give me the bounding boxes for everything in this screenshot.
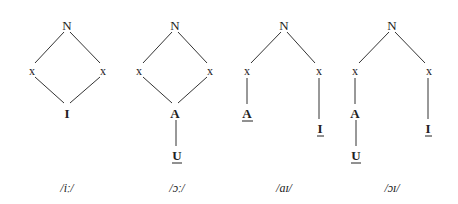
skeleton-node-x-left: x	[136, 64, 142, 78]
diagram-canvas: N x x I /iː/ N x x A U /ɔː/ N x x A I /a…	[0, 0, 458, 204]
root-node-n: N	[387, 18, 397, 33]
element-i-headed: I	[425, 121, 430, 136]
element-a: A	[350, 106, 360, 121]
root-node-n: N	[62, 18, 72, 33]
element-a-headed: A	[242, 106, 252, 121]
skeleton-node-x-right: x	[426, 64, 432, 78]
vowel-label: /ɔː/	[168, 181, 186, 195]
vowel-label: /ɔɪ/	[383, 181, 401, 195]
element-i-headed: I	[317, 121, 322, 136]
skeleton-node-x-right: x	[316, 64, 322, 78]
vowel-label: /iː/	[59, 181, 75, 195]
skeleton-node-x-left: x	[352, 64, 358, 78]
element-a: A	[170, 106, 180, 121]
edge	[35, 77, 64, 103]
tree-oo: N x x A U /ɔː/	[136, 18, 213, 195]
root-node-n: N	[279, 18, 289, 33]
element-u-headed: U	[172, 148, 182, 163]
edge	[359, 32, 389, 63]
edge	[178, 32, 207, 63]
skeleton-node-x-right: x	[207, 64, 213, 78]
element-i: I	[64, 106, 69, 121]
edge	[178, 77, 207, 103]
tree-ai: N x x A I /aɪ/	[242, 18, 324, 195]
element-u-headed: U	[351, 148, 361, 163]
edge	[35, 32, 64, 63]
edge	[395, 32, 425, 63]
skeleton-node-x-left: x	[244, 64, 250, 78]
tree-ii: N x x I /iː/	[29, 18, 106, 195]
edge	[287, 32, 315, 63]
edge	[143, 32, 172, 63]
skeleton-node-x-right: x	[100, 64, 106, 78]
skeleton-node-x-left: x	[29, 64, 35, 78]
edge	[70, 32, 100, 63]
root-node-n: N	[170, 18, 180, 33]
element-structure-diagram: N x x I /iː/ N x x A U /ɔː/ N x x A I /a…	[0, 0, 458, 204]
tree-oi: N x x A U I /ɔɪ/	[350, 18, 432, 195]
edge	[70, 77, 100, 103]
edge	[143, 77, 172, 103]
edge	[251, 32, 281, 63]
vowel-label: /aɪ/	[275, 181, 294, 195]
